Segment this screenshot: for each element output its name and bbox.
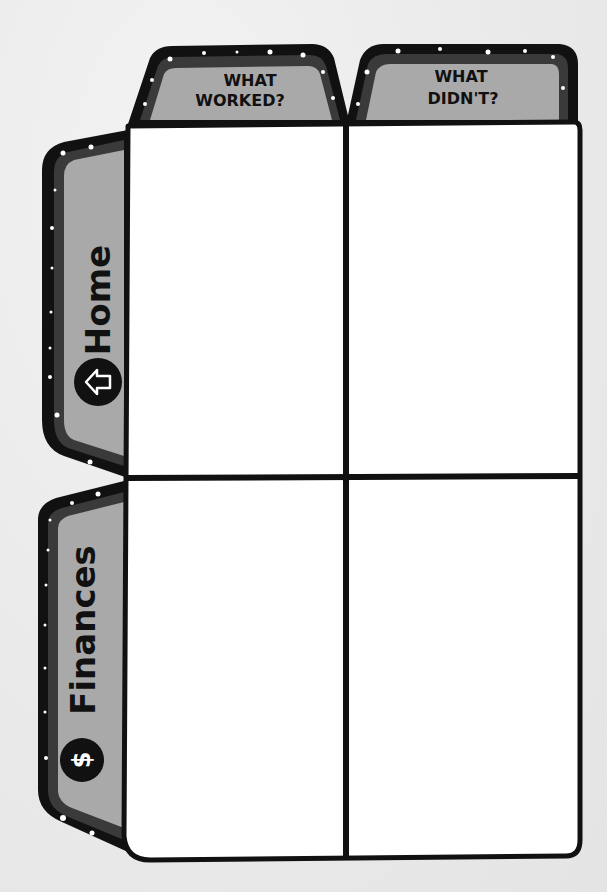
row-label-home: Home [78, 245, 118, 355]
row-label-finances: Finances [63, 545, 103, 715]
column-header-line2: DIDN'T? [428, 89, 499, 108]
reflection-worksheet: WHAT WORKED? WHAT DIDN'T? Home [0, 0, 607, 892]
cell-home-what-worked[interactable] [130, 128, 342, 474]
dollar-icon: $ [60, 738, 104, 782]
row-tab-home: Home [42, 130, 128, 478]
column-header-line1: WHAT [223, 71, 276, 90]
column-header-line2: WORKED? [195, 91, 284, 110]
cell-home-what-didnt[interactable] [350, 126, 576, 474]
cell-finances-what-worked[interactable] [130, 482, 342, 854]
row-tab-finances: $ Finances [38, 480, 128, 852]
svg-text:$: $ [68, 752, 96, 769]
column-tab-what-didnt: WHAT DIDN'T? [346, 44, 578, 124]
cell-finances-what-didnt[interactable] [350, 480, 576, 852]
home-arrow-icon [74, 358, 122, 406]
column-tab-what-worked: WHAT WORKED? [128, 44, 350, 124]
column-header-line1: WHAT [434, 67, 487, 86]
